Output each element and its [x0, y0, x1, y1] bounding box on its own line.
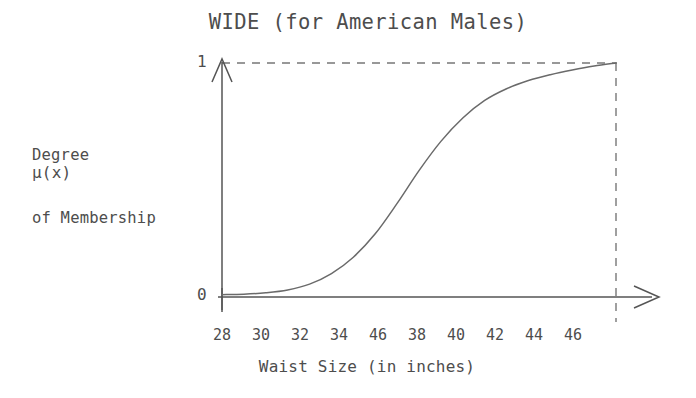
x-tick-label: 46	[564, 326, 582, 344]
x-tick-label: 40	[447, 326, 465, 344]
x-tick-label-row: 28303234463840424446	[0, 326, 696, 346]
x-tick-label: 30	[252, 326, 270, 344]
x-tick-label: 38	[408, 326, 426, 344]
x-tick-label: 42	[486, 326, 504, 344]
x-tick-label: 32	[291, 326, 309, 344]
figure-canvas: WIDE (for American Males) Degree of Memb…	[0, 0, 696, 398]
x-tick-label: 34	[330, 326, 348, 344]
membership-curve	[222, 63, 616, 295]
x-tick-label: 28	[213, 326, 231, 344]
x-tick-label: 46	[369, 326, 387, 344]
x-axis-label: Waist Size (in inches)	[0, 357, 696, 376]
x-tick-label: 44	[525, 326, 543, 344]
